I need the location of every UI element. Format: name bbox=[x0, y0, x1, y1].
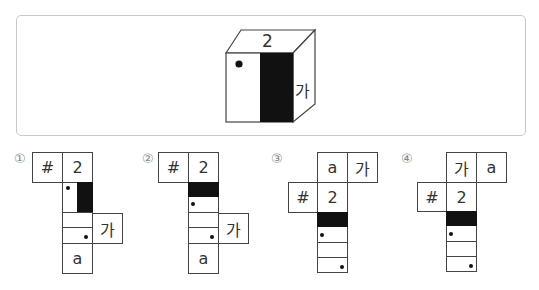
net-cell: a bbox=[317, 152, 348, 183]
dot bbox=[66, 186, 70, 190]
option-marker: ④ bbox=[401, 151, 413, 166]
net-cell: a bbox=[62, 243, 93, 274]
net-cell: 가 bbox=[446, 152, 477, 183]
net-cell: 가 bbox=[218, 213, 249, 244]
dot bbox=[340, 265, 344, 269]
cube-black-band bbox=[260, 53, 293, 122]
black-band bbox=[188, 182, 219, 197]
net-cell: # bbox=[288, 182, 318, 213]
dot bbox=[449, 232, 453, 236]
net-cell: # bbox=[32, 152, 63, 183]
net-cell: 2 bbox=[446, 182, 477, 212]
dot bbox=[469, 264, 473, 268]
net-cell: # bbox=[417, 182, 447, 212]
net-cell: 2 bbox=[62, 152, 93, 183]
option-marker: ① bbox=[14, 151, 26, 166]
dot bbox=[210, 235, 214, 239]
black-band bbox=[317, 212, 348, 227]
option-marker: ③ bbox=[271, 151, 283, 166]
net-cell: 가 bbox=[347, 152, 378, 183]
black-band bbox=[77, 182, 93, 213]
net-cell: a bbox=[476, 152, 507, 183]
net-cell: # bbox=[158, 152, 189, 183]
split-line bbox=[188, 227, 219, 228]
net-cell: 2 bbox=[317, 182, 348, 213]
dot bbox=[191, 202, 195, 206]
net-cell: 2 bbox=[188, 152, 219, 183]
net-cell: 가 bbox=[92, 213, 123, 244]
split-line bbox=[62, 227, 93, 228]
black-band bbox=[446, 211, 477, 226]
net-cell-split bbox=[188, 212, 219, 244]
dot bbox=[320, 233, 324, 237]
net-cell: a bbox=[188, 243, 219, 274]
cube-top-label: 2 bbox=[262, 31, 273, 51]
split-line bbox=[317, 257, 348, 258]
dot bbox=[84, 235, 88, 239]
cube-dot bbox=[235, 60, 242, 67]
cube-right-label: 가 bbox=[295, 78, 310, 102]
split-line bbox=[446, 256, 477, 257]
option-marker: ② bbox=[142, 151, 154, 166]
net-cell-split bbox=[62, 212, 93, 244]
